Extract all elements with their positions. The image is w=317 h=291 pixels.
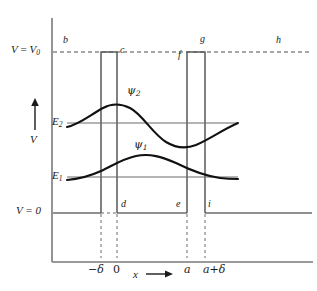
- x-axis-arrow-icon: [146, 270, 173, 277]
- psi2-label-text: ψ: [127, 84, 136, 97]
- potential-well-figure: V = V0 V = 0 V x E2 E1 ψ2 ψ1 b c d e: [0, 0, 317, 291]
- v-zero-label-text: V = 0: [16, 204, 41, 216]
- point-label-e: e: [176, 199, 180, 209]
- point-label-i-text: i: [208, 198, 211, 209]
- tick-label-zero: 0: [113, 263, 120, 276]
- tick-label-a: a: [184, 263, 191, 276]
- psi2-label: ψ2: [127, 85, 140, 97]
- point-label-g-text: g: [200, 33, 205, 44]
- e1-label-sub: 1: [59, 174, 63, 183]
- y-axis-label: V: [30, 134, 37, 145]
- point-label-f: f: [178, 50, 181, 60]
- point-label-h: h: [276, 35, 281, 45]
- point-label-c-text: c: [120, 44, 124, 55]
- tick-label-a-plus-delta: a+δ: [203, 263, 225, 276]
- psi1-curve: [67, 155, 238, 180]
- right-barrier: [187, 52, 205, 213]
- v-zero-axis-label: V = 0: [16, 205, 41, 216]
- psi2-curve: [67, 104, 238, 147]
- point-label-f-text: f: [178, 49, 181, 60]
- point-label-g: g: [200, 34, 205, 44]
- tick-label-minus-delta: −δ: [88, 263, 104, 276]
- tick-label-zero-text: 0: [113, 263, 120, 276]
- e2-label-sub: 2: [59, 120, 63, 129]
- v-axis-arrow-icon: [31, 98, 39, 130]
- x-axis-label: x: [133, 268, 138, 280]
- psi1-label: ψ1: [134, 139, 147, 151]
- point-label-h-text: h: [276, 34, 281, 45]
- point-label-b-text: b: [63, 34, 68, 45]
- point-label-c: c: [120, 45, 124, 55]
- v-top-axis-label: V = V0: [11, 44, 40, 56]
- tick-label-a-text: a: [184, 263, 191, 276]
- psi1-label-sub: 1: [143, 143, 148, 152]
- psi2-label-sub: 2: [136, 89, 141, 98]
- v-top-label-v: V: [11, 43, 18, 55]
- tick-label-a-plus-delta-text: a+δ: [203, 263, 225, 276]
- e2-level-label: E2: [52, 116, 62, 128]
- v-top-label-sub: 0: [36, 48, 40, 57]
- v-top-label-eq: =: [18, 43, 30, 55]
- tick-label-minus-delta-text: −δ: [88, 263, 104, 276]
- point-label-e-text: e: [176, 198, 180, 209]
- psi1-label-text: ψ: [134, 138, 143, 151]
- x-axis-label-text: x: [133, 268, 138, 280]
- point-label-b: b: [63, 35, 68, 45]
- left-barrier: [101, 52, 117, 213]
- point-label-d: d: [121, 199, 126, 209]
- e2-label-text: E: [52, 115, 59, 127]
- e1-label-text: E: [52, 169, 59, 181]
- diagram-canvas: [0, 0, 317, 291]
- y-axis-label-text: V: [30, 133, 37, 145]
- e1-level-label: E1: [52, 170, 62, 182]
- point-label-d-text: d: [121, 198, 126, 209]
- point-label-i: i: [208, 199, 211, 209]
